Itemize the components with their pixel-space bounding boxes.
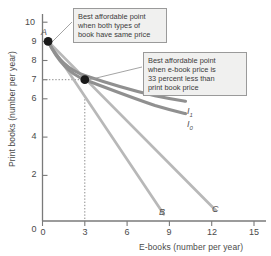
y-tick-10: 10 [22,17,38,27]
annotation-line: book have same price [78,30,162,39]
x-tick-3: 3 [77,227,93,237]
curve-label-i1-sub: 1 [190,112,193,118]
y-tick-2: 2 [26,169,42,179]
x-tick-15: 15 [246,227,262,237]
y-tick-8: 8 [26,55,42,65]
curve-label-i0-sub: 0 [190,125,193,131]
annotation-line: 33 percent less than [148,74,242,83]
leader-line-note-a [51,22,72,43]
y-tick-4: 4 [26,131,42,141]
annotation-line: when e-book price is [148,65,242,74]
curve-label-i0: I0 [187,119,193,131]
y-tick-7: 7 [26,74,42,84]
annotation-box-same-price: Best affordable point when both types of… [73,8,167,43]
y-axis-title: Print books (number per year) [7,49,17,169]
point-label-a: A [41,27,47,37]
annotation-line: Best affordable point [148,56,242,65]
annotation-box-discount-price: Best affordable point when e-book price … [143,52,247,96]
x-tick-9: 9 [161,227,177,237]
annotation-line: when both types of [78,21,162,30]
y-tick-6: 6 [26,93,42,103]
data-point-a[interactable] [44,37,53,46]
x-tick-0: 0 [35,227,51,237]
x-axis-ticks [43,221,255,226]
point-label-c: C [212,204,219,214]
curve-label-i1: I1 [187,106,193,118]
point-label-b: B [159,207,165,217]
x-axis-title: E-books (number per year) [139,242,243,252]
y-tick-9: 9 [26,36,42,46]
x-tick-12: 12 [204,227,220,237]
chart-figure: 10 9 8 7 6 4 2 0 0 3 6 9 12 15 Print boo… [0,0,271,256]
x-tick-6: 6 [119,227,135,237]
data-point-best-affordable[interactable] [80,75,89,84]
annotation-line: print book price [148,83,242,92]
annotation-line: Best affordable point [78,12,162,21]
leader-line-note-b [88,67,142,80]
